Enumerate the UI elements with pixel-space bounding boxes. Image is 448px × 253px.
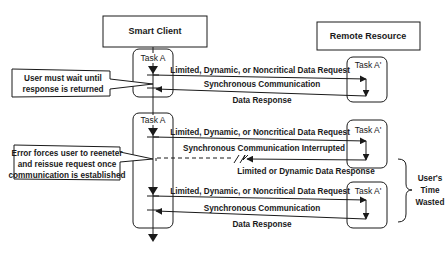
smart-client-box: Smart Client	[103, 16, 207, 47]
request-arrow-1	[153, 75, 366, 79]
error-callout-line-2: and reissue request once	[18, 160, 117, 169]
brace-label-line-1: User's	[418, 174, 443, 183]
lifeline-end-arrow-icon	[148, 234, 158, 242]
client-task-label-1: Task A	[140, 53, 165, 63]
request-label-3: Limited, Dynamic, or Noncritical Data Re…	[170, 187, 350, 196]
remote-task-box-3: Task A'	[347, 182, 387, 228]
channel-label-2: Synchronous Communication Interrupted	[183, 144, 345, 153]
remote-task-label-2: Task A'	[355, 125, 382, 135]
remote-task-box-2: Task A'	[347, 120, 387, 168]
error-callout-line-3: communication is established	[9, 171, 126, 180]
wait-callout-line-1: User must wait until	[24, 74, 102, 83]
channel-label-1: Synchronous Communication	[204, 80, 320, 89]
brace	[398, 159, 412, 222]
remote-resource-box: Remote Resource	[317, 22, 420, 50]
brace-label-line-2: Time	[421, 186, 440, 195]
remote-task-label-1: Task A'	[355, 60, 382, 70]
wait-callout-line-2: response is returned	[23, 85, 104, 94]
remote-task-label-3: Task A'	[355, 186, 382, 196]
client-task-label-2: Task A	[140, 115, 165, 125]
request-arrow-2	[153, 137, 366, 141]
response-label-1: Data Response	[232, 96, 292, 105]
brace-label-line-3: Wasted	[416, 198, 445, 207]
error-callout-line-1: Error forces user to reeneter	[11, 149, 123, 158]
request-label-1: Limited, Dynamic, or Noncritical Data Re…	[170, 66, 350, 75]
request-label-2: Limited, Dynamic, or Noncritical Data Re…	[170, 128, 350, 137]
down-arrow-icon	[148, 187, 158, 195]
break-icon-2	[234, 155, 239, 163]
wait-callout: User must wait until response is returne…	[12, 69, 153, 97]
remote-resource-label: Remote Resource	[330, 31, 407, 41]
channel-label-3: Synchronous Communication	[204, 204, 320, 213]
response-label-3: Data Response	[232, 220, 292, 229]
sequence-diagram: Smart Client Remote Resource Task A Limi…	[0, 0, 448, 253]
request-arrow-3	[153, 196, 366, 200]
error-callout: Error forces user to reeneter and reissu…	[9, 145, 153, 180]
down-arrow-icon	[148, 128, 158, 136]
response-arrow-1	[156, 89, 366, 96]
smart-client-label: Smart Client	[128, 26, 181, 36]
response-arrow-2	[247, 159, 366, 160]
break-icon	[240, 155, 248, 163]
